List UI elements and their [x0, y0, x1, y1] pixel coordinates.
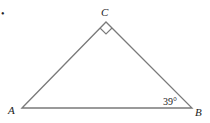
angle-label-b: 39° — [163, 96, 177, 107]
bullet-marker: • — [1, 8, 5, 19]
triangle-diagram: • C A B 39° — [0, 0, 210, 123]
vertex-label-b: B — [195, 106, 202, 118]
vertex-label-c: C — [101, 6, 109, 18]
right-angle-marker — [100, 28, 112, 34]
vertex-label-a: A — [7, 104, 15, 116]
